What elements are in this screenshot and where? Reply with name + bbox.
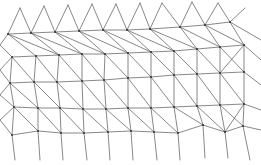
mesh-edge — [10, 83, 14, 107]
mesh-node — [243, 44, 245, 46]
triangular-mesh — [0, 0, 261, 165]
mesh-edge — [12, 57, 34, 82]
mesh-edge — [0, 107, 14, 120]
mesh-edge — [105, 54, 128, 78]
mesh-edge — [55, 31, 79, 32]
mesh-edge — [174, 107, 178, 133]
mesh-edge — [103, 4, 116, 30]
mesh-edge — [60, 108, 84, 133]
mesh-edge — [128, 108, 154, 132]
mesh-node — [196, 48, 198, 50]
mesh-node — [173, 106, 175, 108]
mesh-edge — [225, 132, 228, 158]
mesh-node — [150, 107, 152, 109]
mesh-edge — [104, 80, 128, 108]
mesh-node — [196, 105, 198, 107]
mesh-node — [59, 107, 61, 109]
mesh-edge — [57, 55, 59, 82]
mesh-edge — [36, 56, 57, 82]
mesh-node — [60, 132, 62, 134]
mesh-edge — [31, 33, 59, 55]
mesh-edge — [57, 81, 82, 82]
mesh-node — [243, 71, 245, 73]
mesh-node — [127, 52, 129, 54]
mesh-node — [58, 54, 60, 56]
mesh-node — [127, 77, 129, 79]
mesh-edge — [0, 57, 12, 70]
mesh-edge — [79, 4, 92, 31]
mesh-edge — [55, 5, 68, 32]
mesh-node — [33, 81, 35, 83]
mesh-edge — [103, 30, 151, 52]
mesh-edge — [128, 108, 131, 131]
mesh-edge — [57, 82, 83, 109]
mesh-node — [179, 26, 181, 28]
mesh-node — [83, 132, 85, 134]
mesh-node — [204, 24, 206, 26]
mesh-edge — [84, 133, 87, 160]
mesh-node — [54, 31, 56, 33]
mesh-edge — [36, 55, 59, 56]
mesh-node — [153, 131, 155, 133]
mesh-edge — [244, 45, 261, 60]
mesh-edge — [31, 33, 82, 54]
mesh-edge — [34, 82, 60, 108]
mesh-edge — [128, 78, 151, 108]
mesh-edge — [151, 107, 174, 108]
mesh-node — [150, 51, 152, 53]
mesh-edge — [180, 25, 205, 27]
mesh-edge — [128, 53, 151, 77]
mesh-edge — [0, 120, 12, 135]
mesh-node — [126, 29, 128, 31]
mesh-edge — [174, 51, 197, 74]
mesh-edges — [0, 2, 261, 160]
mesh-node — [11, 134, 13, 136]
mesh-edge — [20, 8, 31, 33]
mesh-edge — [108, 132, 110, 160]
mesh-node — [13, 106, 15, 108]
mesh-edge — [68, 5, 79, 31]
mesh-node — [82, 108, 84, 110]
mesh-edge — [79, 30, 103, 31]
mesh-edge — [197, 49, 220, 73]
mesh-edge — [205, 3, 218, 25]
mesh-node — [104, 53, 106, 55]
mesh-edge — [34, 56, 36, 82]
mesh-edge — [243, 126, 261, 130]
mesh-edge — [12, 107, 14, 135]
mesh-edge — [225, 104, 244, 132]
mesh-edge — [60, 108, 61, 133]
mesh-edge — [230, 8, 245, 22]
mesh-edge — [38, 108, 61, 133]
mesh-edge — [82, 81, 83, 109]
mesh-edge — [60, 108, 83, 109]
mesh-edge — [10, 82, 34, 83]
mesh-edge — [0, 34, 8, 45]
mesh-edge — [12, 135, 15, 160]
mesh-edge — [83, 109, 84, 133]
mesh-node — [81, 80, 83, 82]
mesh-edge — [131, 131, 154, 132]
mesh-edge — [104, 78, 128, 80]
mesh-edge — [106, 108, 128, 109]
mesh-edge — [12, 131, 38, 135]
mesh-node — [56, 81, 58, 83]
mesh-edge — [220, 45, 244, 47]
mesh-edge — [105, 53, 128, 54]
mesh-node — [242, 125, 244, 127]
mesh-edge — [104, 54, 105, 80]
mesh-edge — [31, 6, 44, 33]
mesh-edge — [10, 83, 38, 108]
mesh-edge — [220, 72, 244, 73]
mesh-edge — [34, 82, 38, 108]
mesh-edge — [127, 29, 150, 30]
mesh-node — [9, 82, 11, 84]
mesh-edge — [14, 107, 38, 131]
mesh-edge — [108, 131, 131, 132]
mesh-edge — [243, 104, 244, 126]
mesh-edge — [14, 107, 38, 108]
mesh-node — [81, 53, 83, 55]
mesh-edge — [131, 131, 133, 160]
mesh-edge — [174, 107, 203, 125]
mesh-node — [35, 55, 37, 57]
